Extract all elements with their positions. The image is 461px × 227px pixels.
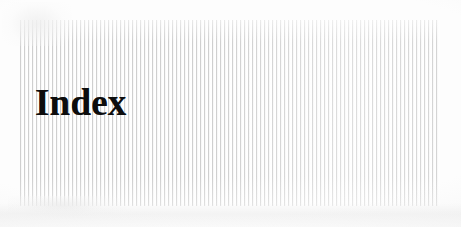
banner-light-wash xyxy=(209,20,440,206)
scan-shadow-bottom xyxy=(0,203,461,227)
page-title: Index xyxy=(35,83,126,123)
scanned-page: Index xyxy=(0,0,461,227)
